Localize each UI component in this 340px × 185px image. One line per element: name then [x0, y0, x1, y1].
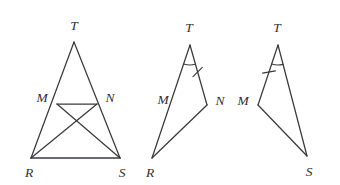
angle-arc-icon-T-figure-3: [272, 64, 283, 65]
vertex-label-R-figure-1: R: [24, 165, 34, 180]
segment-TS: [278, 45, 307, 156]
tick-mark-icon-TN-figure-2: [193, 67, 202, 76]
figure-1-triangle-TRS-with-cevians: T M N R S: [24, 18, 126, 180]
figure-3-triangle-TMS: T M S: [236, 20, 312, 179]
geometry-diagram: T M N R S T M N R T M S: [0, 0, 340, 185]
segment-RN: [152, 105, 207, 158]
segment-TM: [258, 45, 278, 105]
side-label-M-figure-2: M: [156, 92, 169, 107]
vertex-label-S-figure-1: S: [119, 165, 126, 180]
vertex-label-N-figure-2: N: [214, 93, 225, 108]
vertex-label-T-figure-3: T: [273, 20, 282, 35]
vertex-label-R-figure-2: R: [145, 165, 155, 180]
vertex-label-M-figure-1: M: [35, 90, 48, 105]
angle-arc-icon-T-figure-2: [184, 64, 196, 65]
vertex-label-M-figure-3: M: [236, 93, 249, 108]
segment-MS: [258, 105, 307, 156]
vertex-label-S-figure-3: S: [306, 164, 313, 179]
geometry-figure-container: T M N R S T M N R T M S: [0, 0, 340, 185]
vertex-label-T-figure-2: T: [185, 20, 194, 35]
segment-MS: [57, 104, 120, 158]
vertex-label-N-figure-1: N: [104, 90, 115, 105]
figure-2-triangle-TRN: T M N R: [145, 20, 226, 180]
vertex-label-T-figure-1: T: [70, 18, 79, 33]
segment-TN: [190, 45, 207, 105]
